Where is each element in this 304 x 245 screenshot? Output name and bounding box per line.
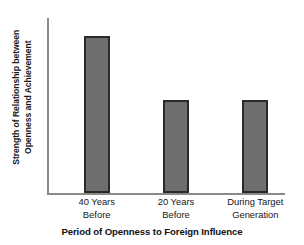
x-axis-line <box>47 193 285 195</box>
x-axis-title: Period of Openness to Foreign Influence <box>0 226 304 237</box>
y-axis-title-line-1: Strength of Relationship between <box>10 30 22 165</box>
bar-chart-figure: Strength of Relationship between Opennes… <box>0 0 304 245</box>
y-axis-title-line-2: Openness and Achievement <box>22 30 34 165</box>
x-tick-label-2-line-2: Generation <box>205 209 304 222</box>
bar-20-years-before <box>163 100 189 193</box>
x-tick-label-2-line-1: During Target <box>205 196 304 209</box>
y-axis-line <box>47 18 49 194</box>
y-axis-title: Strength of Relationship between Opennes… <box>0 0 44 194</box>
x-tick-labels: 40 Years Before 20 Years Before During T… <box>47 196 285 226</box>
plot-area <box>47 18 285 194</box>
bar-during-target-generation <box>242 100 268 193</box>
y-axis-title-text: Strength of Relationship between Opennes… <box>10 30 34 165</box>
x-tick-label-2: During Target Generation <box>205 196 304 221</box>
bar-40-years-before <box>84 36 110 193</box>
